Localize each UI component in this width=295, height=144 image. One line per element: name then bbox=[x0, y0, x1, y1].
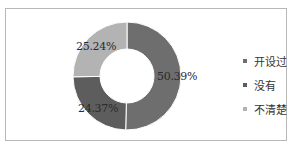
slice-label-1: 24.37% bbox=[78, 102, 118, 115]
legend-label: 没有 bbox=[254, 77, 276, 93]
legend: 开设过 没有 不清楚 bbox=[243, 49, 287, 121]
legend-label: 开设过 bbox=[254, 53, 287, 69]
slice-label-0: 50.39% bbox=[157, 70, 197, 83]
legend-swatch-icon bbox=[243, 107, 247, 111]
slice-label-2: 25.24% bbox=[76, 40, 116, 53]
legend-item-unclear: 不清楚 bbox=[243, 97, 287, 121]
legend-swatch-icon bbox=[243, 83, 247, 87]
legend-label: 不清楚 bbox=[254, 101, 287, 117]
legend-item-opened: 开设过 bbox=[243, 49, 287, 73]
legend-item-none: 没有 bbox=[243, 73, 287, 97]
legend-swatch-icon bbox=[243, 59, 247, 63]
